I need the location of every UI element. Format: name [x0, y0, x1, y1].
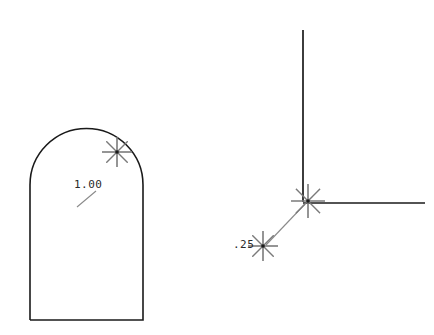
dimension-leader-line-left: [77, 191, 96, 207]
marker-center-dot: [115, 150, 119, 154]
dimension-label-left: 1.00: [74, 178, 103, 191]
dimension-label-right: .25: [233, 238, 254, 251]
drawing-canvas[interactable]: 1.00 .25: [0, 0, 434, 335]
left-figure-group[interactable]: 1.00: [30, 129, 143, 321]
snap-marker-corner-icon[interactable]: [291, 184, 325, 218]
marker-center-dot: [261, 244, 265, 248]
drawing-svg: 1.00 .25: [0, 0, 434, 335]
arched-shape-outline[interactable]: [30, 129, 143, 321]
snap-marker-arc-icon[interactable]: [102, 137, 132, 167]
right-figure-group[interactable]: .25: [233, 30, 425, 261]
marker-center-dot: [306, 199, 310, 203]
